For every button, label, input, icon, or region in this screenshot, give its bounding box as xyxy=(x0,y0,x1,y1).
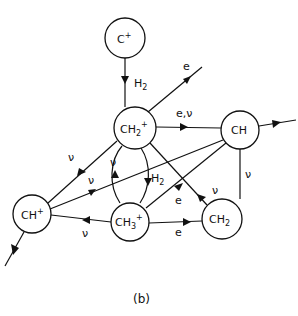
arrowhead-icon xyxy=(272,120,281,128)
edge-ch3plus-to-ch2plus: ν xyxy=(110,146,122,203)
node-ch2: CH2 xyxy=(202,199,242,239)
edge-ch-to-chplus: ν xyxy=(50,140,223,209)
node-ch2plus: CH2+ xyxy=(114,107,156,149)
arrowhead-icon xyxy=(183,76,191,84)
edge-ch2plus-out-e: e xyxy=(148,60,202,112)
arrowhead-icon xyxy=(88,189,96,196)
arrowhead-icon xyxy=(77,168,86,176)
edge-chplus-out xyxy=(5,232,24,266)
edge-label-nu: ν xyxy=(88,174,94,187)
edge-label-nu: ν xyxy=(245,168,251,181)
node-ch: CH xyxy=(221,111,259,149)
edge-ch3plus-to-chplus: ν xyxy=(51,215,111,240)
edge-label-h2: H2 xyxy=(134,77,147,92)
node-cplus: C+ xyxy=(105,18,145,58)
arrowhead-icon xyxy=(197,194,206,202)
svg-text:CH: CH xyxy=(231,124,247,137)
arrowhead-icon xyxy=(121,76,129,84)
edge-label-nu: ν xyxy=(82,227,88,240)
edge-label-e-nu: e,ν xyxy=(176,107,192,120)
arrowhead-icon xyxy=(183,218,191,226)
node-chplus: CH+ xyxy=(13,195,51,233)
edge-ch-out xyxy=(259,120,296,128)
edge-label-nu: ν xyxy=(110,156,116,169)
edge-label-h2: H2 xyxy=(151,172,164,187)
arrowhead-icon xyxy=(82,216,90,224)
edge-ch3plus-to-ch2: e xyxy=(149,218,202,239)
edge-label-nu: ν xyxy=(68,151,74,164)
edge-label-e: e xyxy=(175,226,182,239)
edge-label-nu: ν xyxy=(212,184,218,197)
arrowhead-icon xyxy=(180,123,188,131)
edge-label-e: e xyxy=(175,194,182,207)
reaction-network-diagram: H2 e e,ν ν ν ν H2 xyxy=(0,0,298,316)
edge-ch2plus-to-chplus: ν xyxy=(48,141,117,203)
edge-ch2plus-to-ch: e,ν xyxy=(156,107,221,131)
edge-ch-to-ch2: ν xyxy=(240,149,251,199)
figure-caption: (b) xyxy=(133,292,150,306)
node-ch3plus: CH3+ xyxy=(111,203,149,241)
edge-label-e: e xyxy=(183,60,190,73)
edge-ch2plus-to-ch3plus: H2 xyxy=(140,148,164,203)
edge-cplus-to-ch2plus: H2 xyxy=(121,58,147,107)
